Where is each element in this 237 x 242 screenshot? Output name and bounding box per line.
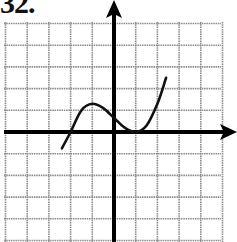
graph <box>0 0 237 242</box>
x-axis <box>4 124 237 140</box>
y-axis <box>106 0 122 242</box>
